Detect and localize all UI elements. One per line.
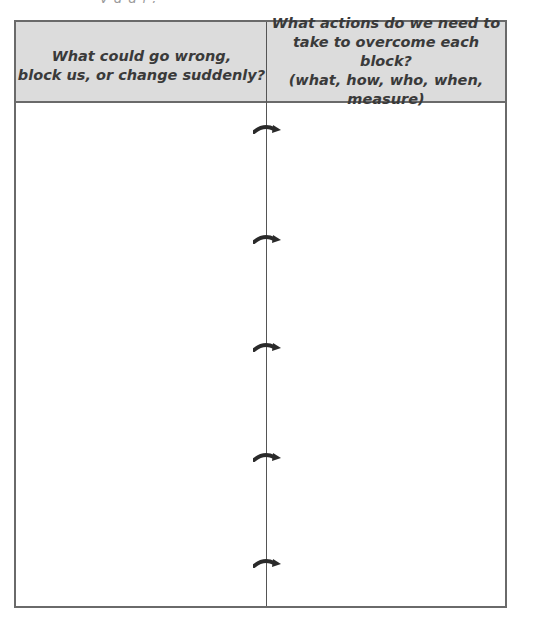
curved-right-arrow-icon: [253, 122, 283, 136]
curved-right-arrow-icon: [253, 340, 283, 354]
risks-entry-area[interactable]: [16, 103, 266, 606]
table-header: What could go wrong, block us, or change…: [16, 22, 505, 103]
curved-right-arrow-icon: [253, 450, 283, 464]
header-risks: What could go wrong, block us, or change…: [16, 22, 267, 101]
actions-entry-area[interactable]: [267, 103, 505, 606]
header-risks-line-1: What could go wrong,: [18, 47, 265, 66]
header-risks-line-2: block us, or change suddenly?: [18, 66, 265, 85]
curved-right-arrow-icon: [253, 556, 283, 570]
cutoff-previous-text: y g q j ,: [100, 0, 360, 3]
risk-action-table: What could go wrong, block us, or change…: [14, 20, 507, 608]
curved-right-arrow-icon: [253, 232, 283, 246]
header-actions-line-2: take to overcome each block?: [267, 33, 505, 71]
header-actions-line-1: What actions do we need to: [267, 14, 505, 33]
header-actions: What actions do we need to take to overc…: [267, 22, 505, 101]
column-divider: [266, 22, 267, 606]
